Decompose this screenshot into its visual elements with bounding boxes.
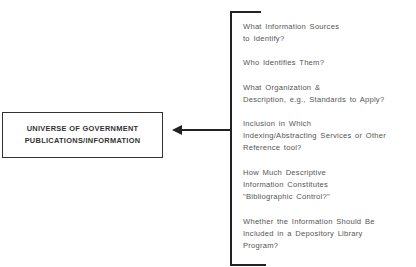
bracket-vertical-line	[230, 11, 232, 266]
question-line: What Organization &	[243, 82, 416, 94]
box-line-2: PUBLICATIONS/INFORMATION	[25, 135, 141, 147]
question-line: Who Identifies Them?	[243, 57, 416, 69]
question-bibliographic-control: How Much Descriptive Information Constit…	[243, 167, 416, 203]
question-organization: What Organization & Description, e.g., S…	[243, 82, 416, 106]
question-line: to Identify?	[243, 33, 416, 45]
question-line: Included in a Depository Library	[243, 228, 416, 240]
box-line-1: UNIVERSE OF GOVERNMENT	[27, 123, 139, 135]
question-line: How Much Descriptive	[243, 167, 416, 179]
question-depository: Whether the Information Should Be Includ…	[243, 216, 416, 252]
question-line: Reference tool?	[243, 142, 416, 154]
universe-box: UNIVERSE OF GOVERNMENT PUBLICATIONS/INFO…	[2, 112, 163, 158]
question-sources: What Information Sources to Identify?	[243, 21, 416, 45]
question-who: Who Identifies Them?	[243, 57, 416, 69]
question-line: "Bibliographic Control?"	[243, 191, 416, 203]
question-line: Indexing/Abstracting Services or Other	[243, 130, 416, 142]
question-line: Inclusion in Which	[243, 118, 416, 130]
bracket-top-line	[230, 11, 261, 13]
bracket-bottom-line	[230, 264, 266, 266]
question-line: Information Constitutes	[243, 179, 416, 191]
question-line: Program?	[243, 240, 416, 252]
question-line: What Information Sources	[243, 21, 416, 33]
question-indexing: Inclusion in Which Indexing/Abstracting …	[243, 118, 416, 154]
question-line: Description, e.g., Standards to Apply?	[243, 94, 416, 106]
question-line: Whether the Information Should Be	[243, 216, 416, 228]
arrow-line	[180, 129, 231, 131]
